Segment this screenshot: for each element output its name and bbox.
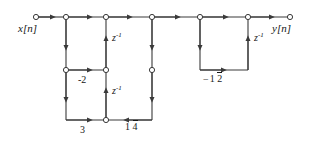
delay-element-right: z-1 — [254, 31, 264, 43]
top-node-2[interactable] — [103, 14, 108, 19]
top-node-3[interactable] — [149, 14, 154, 19]
mid-node-left[interactable] — [63, 67, 68, 72]
input-label: x[n] — [18, 22, 37, 34]
gain-minus-one-half-sign: − — [203, 74, 209, 85]
gain-one-quarter: 1 4 — [124, 122, 138, 133]
gain-minus-one-half-denominator: 2 — [217, 72, 222, 84]
gain-3: 3 — [80, 124, 85, 135]
delay-element-lower-left: z-1 — [112, 84, 122, 96]
signal-flow-diagram: x[n] y[n] z-1 z-1 z-1 -2 3 1 4 − 1 2 — [0, 0, 319, 149]
gain-one-quarter-numerator: 1 — [125, 121, 130, 132]
gain-minus-2: -2 — [78, 74, 86, 85]
top-node-5[interactable] — [245, 14, 250, 19]
output-node[interactable] — [287, 14, 292, 19]
top-node-1[interactable] — [63, 14, 68, 19]
input-node[interactable] — [33, 14, 38, 19]
mid-node-right[interactable] — [103, 67, 108, 72]
top-node-4[interactable] — [197, 14, 202, 19]
mid-node-feedback[interactable] — [149, 67, 154, 72]
delay-exponent: -1 — [258, 31, 264, 39]
gain-one-quarter-denominator: 4 — [133, 120, 138, 132]
delay-exponent: -1 — [116, 31, 122, 39]
delay-element-upper-left: z-1 — [112, 31, 122, 43]
gain-minus-one-half: − 1 2 — [203, 74, 222, 85]
bottom-node-center[interactable] — [103, 117, 108, 122]
delay-exponent: -1 — [116, 84, 122, 92]
gain-minus-one-half-numerator: 1 — [210, 73, 215, 84]
output-label: y[n] — [272, 22, 291, 34]
